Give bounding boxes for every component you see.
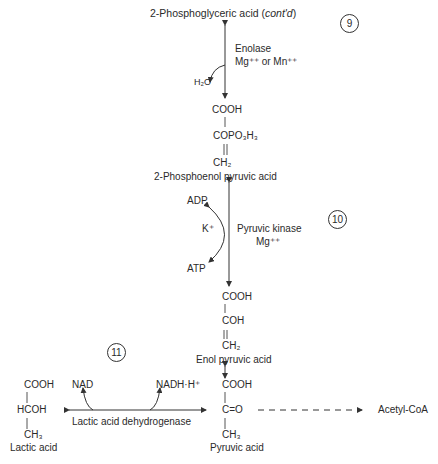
- pyruvic-ch3: CH₃: [222, 430, 241, 440]
- lactic-name: Lactic acid: [10, 443, 57, 453]
- step-9-number: 9: [340, 14, 359, 33]
- enol-cooh: COOH: [222, 292, 252, 302]
- enolase-cofactor: Mg⁺⁺ or Mn⁺⁺: [235, 57, 297, 67]
- 2-phosphoglyceric-acid-title: 2-Phosphoglyceric acid (cont'd): [150, 8, 296, 19]
- step-10-number: 10: [328, 210, 347, 229]
- enol-name: Enol pyruvic acid: [196, 355, 272, 365]
- pyruvic-cooh: COOH: [222, 380, 252, 390]
- enol-ch2: CH₂: [222, 341, 240, 351]
- pep-ch2: CH₂: [213, 158, 231, 168]
- pep-name: 2-Phosphoenol pyruvic acid: [154, 172, 277, 182]
- ldh-label: Lactic acid dehydrogenase: [72, 417, 191, 427]
- nad-label: NAD: [72, 380, 93, 390]
- pathway-arrows: [0, 0, 438, 464]
- acetyl-coa-label: Acetyl-CoA: [378, 405, 428, 415]
- lactic-ch3: CH₃: [24, 430, 43, 440]
- pyruvic-kinase-cofactor: Mg⁺⁺: [256, 237, 280, 247]
- title-end-text: ): [293, 7, 297, 19]
- step-11-number: 11: [107, 343, 126, 362]
- pyruvic-name: Pyruvic acid: [210, 443, 264, 453]
- lactic-hcoh: HCOH: [17, 405, 46, 415]
- pep-copo3h3: COPO₃H₃: [213, 131, 258, 141]
- pyruvic-co: C=O: [222, 405, 243, 415]
- pep-cooh: COOH: [212, 105, 242, 115]
- enol-coh: COH: [222, 316, 244, 326]
- adp-label: ADP: [187, 196, 208, 206]
- title-italic-text: cont'd: [265, 7, 293, 19]
- water-label: H₂O: [194, 78, 211, 87]
- enolase-label: Enolase: [235, 44, 271, 54]
- atp-label: ATP: [187, 264, 206, 274]
- lactic-cooh: COOH: [24, 380, 54, 390]
- nadh-label: NADH·H⁺: [156, 380, 200, 390]
- pyruvic-kinase-label: Pyruvic kinase: [237, 224, 301, 234]
- potassium-label: K⁺: [202, 224, 214, 234]
- title-main-text: 2-Phosphoglyceric acid (: [150, 7, 265, 19]
